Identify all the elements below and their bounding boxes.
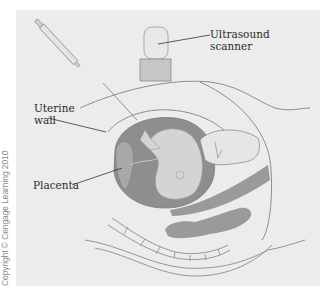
bladder	[200, 130, 259, 165]
copyright-notice: Copyright © Cengage Learning 2010	[0, 151, 10, 286]
ultrasound-scanner-base	[140, 59, 171, 81]
label-line: Uterine	[34, 102, 75, 114]
needle	[103, 83, 137, 120]
label-line: scanner	[210, 40, 270, 52]
label-uterine-wall: Uterine wall	[34, 102, 75, 126]
label-ultrasound-scanner: Ultrasound scanner	[210, 28, 270, 52]
amniocentesis-diagram	[0, 0, 327, 297]
syringe	[34, 18, 81, 68]
label-line: Ultrasound	[210, 28, 270, 40]
label-line: wall	[34, 114, 75, 126]
label-placenta: Placenta	[33, 179, 79, 191]
placenta-leader	[72, 168, 122, 185]
